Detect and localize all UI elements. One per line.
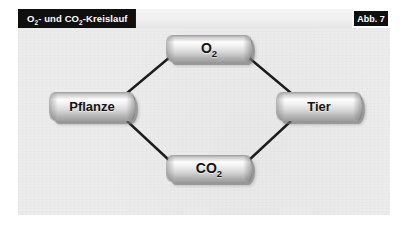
figure-header: O2- und CO2-Kreislauf Abb. 7 [18,9,390,28]
edge-tier-co2 [248,121,291,161]
edge-co2-pflanze [127,121,170,161]
node-o2-label: O2 [201,40,217,56]
figure-title: O2- und CO2-Kreislauf [18,9,136,28]
node-co2-label: CO2 [196,160,222,176]
node-pflanze-label: Pflanze [69,99,115,114]
node-pflanze: Pflanze [49,92,135,121]
header-spacer [136,9,352,28]
node-tier: Tier [276,92,362,121]
node-co2-subscript: 2 [217,168,222,179]
node-o2-subscript: 2 [212,48,217,59]
node-co2: CO2 [166,155,252,182]
node-tier-label: Tier [307,99,331,114]
figure-number-badge: Abb. 7 [352,9,390,28]
figure-title-text: O2- und CO2-Kreislauf [27,13,128,24]
figure-panel: O2 Tier CO2 Pflanze [18,9,390,215]
node-o2: O2 [166,35,252,62]
edge-o2-tier [248,57,291,93]
edge-pflanze-o2 [127,57,170,93]
